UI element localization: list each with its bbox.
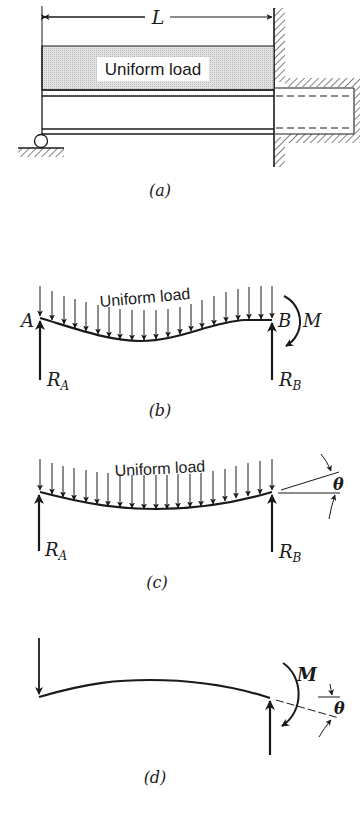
- moment-label: M: [302, 310, 322, 331]
- caption-d: (d): [144, 768, 167, 787]
- deflected-beam: [39, 680, 270, 698]
- load-label: Uniform load: [105, 60, 201, 79]
- caption-c: (c): [146, 573, 167, 592]
- panel-d: M θ (d): [39, 638, 345, 787]
- reaction-b-label: RB: [278, 369, 302, 393]
- roller-support: [18, 135, 64, 158]
- reaction-a-label: RA: [46, 369, 70, 393]
- load-label: Uniform load: [99, 285, 191, 310]
- panel-a: L Uniform load: [18, 6, 360, 200]
- load-label: Uniform load: [114, 458, 205, 480]
- dimension-label: L: [151, 6, 165, 28]
- fixed-wall: [274, 8, 360, 167]
- angle-label: θ: [333, 475, 344, 494]
- slope-angle-indicator: [278, 454, 340, 519]
- reaction-a-label: RA: [44, 539, 68, 563]
- caption-b: (b): [149, 401, 172, 420]
- dimension-L: L: [42, 6, 272, 46]
- point-b-label: B: [277, 310, 291, 331]
- angle-label: θ: [334, 699, 345, 718]
- rotation-angle-indicator: [276, 684, 340, 737]
- beam-figure: L Uniform load: [0, 0, 360, 813]
- point-a-label: A: [19, 310, 34, 331]
- panel-b: Uniform load A B RA RB M (b): [19, 285, 322, 420]
- panel-c: Uniform load RA RB θ (c): [39, 454, 344, 592]
- reaction-b-label: RB: [278, 541, 302, 565]
- caption-a: (a): [149, 181, 171, 200]
- moment-label: M: [296, 664, 318, 685]
